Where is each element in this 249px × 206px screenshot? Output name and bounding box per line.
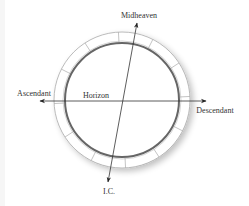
label-ascendant: Ascendant — [17, 89, 52, 98]
label-descendant: Descendant — [196, 106, 234, 115]
outer-ring — [54, 32, 190, 168]
label-horizon: Horizon — [83, 91, 109, 100]
label-ic: I.C. — [103, 187, 115, 196]
edge-artifact — [0, 0, 5, 206]
chart-wheel-diagram: Midheaven I.C. Ascendant Descendant Hori… — [0, 0, 249, 206]
label-midheaven: Midheaven — [121, 11, 157, 20]
